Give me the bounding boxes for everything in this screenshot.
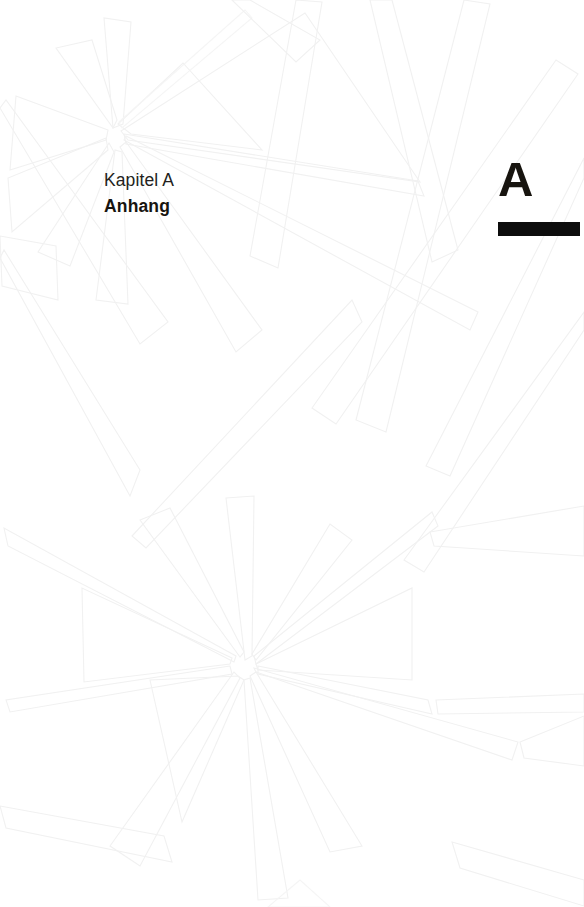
starburst-lower [4,496,518,900]
chapter-marker-letter: A [498,155,584,205]
starburst-edge-fragments [0,236,584,907]
chapter-label: Kapitel A Anhang [104,168,174,218]
chapter-marker: A [498,155,584,236]
starburst-upper [8,10,478,352]
starburst-watermark [0,0,584,907]
chapter-title: Anhang [104,194,174,218]
chapter-marker-rule [498,222,580,236]
starburst-mid-rays [0,0,584,572]
chapter-divider-page: Kapitel A Anhang A [0,0,584,907]
chapter-kicker: Kapitel A [104,168,174,192]
